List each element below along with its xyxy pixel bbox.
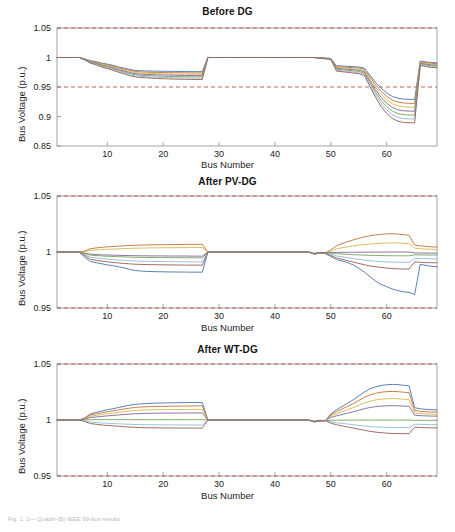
x-tick-label: 60	[382, 479, 392, 489]
series-line	[57, 420, 437, 428]
x-tick-label: 50	[326, 479, 336, 489]
y-tick-label: 1.05	[33, 359, 51, 369]
chart-svg-2: 0.9511.05102030405060	[0, 342, 455, 510]
x-tick-label: 40	[270, 479, 280, 489]
x-tick-label: 20	[158, 311, 168, 321]
series-line	[57, 252, 437, 269]
series-line	[57, 58, 437, 108]
plot-area-2: 0.9511.05102030405060	[0, 342, 455, 510]
x-tick-label: 20	[158, 479, 168, 489]
series-line	[57, 399, 437, 422]
series-line	[57, 252, 437, 295]
plot-area-1: 0.9511.05102030405060	[0, 174, 455, 342]
y-axis-label-0: Bus Voltage (p.u.)	[16, 66, 27, 142]
y-tick-label: 0.9	[38, 112, 51, 122]
figure-caption: Fig. 1. 2— Quadri-(B) IEEE 69-bus result…	[8, 516, 120, 522]
x-tick-label: 60	[382, 149, 392, 159]
x-axis-label-2: Bus Number	[0, 490, 455, 501]
y-tick-label: 1.05	[33, 191, 51, 201]
x-axis-label-0: Bus Number	[0, 159, 455, 170]
y-tick-label: 1	[46, 53, 51, 63]
y-axis-label-1: Bus Voltage (p.u.)	[16, 230, 27, 306]
figure-container: Before DG 0.850.90.9511.05102030405060 B…	[0, 0, 455, 532]
y-axis-label-2: Bus Voltage (p.u.)	[16, 398, 27, 474]
x-axis-label-1: Bus Number	[0, 322, 455, 333]
plot-area-0: 0.850.90.9511.05102030405060	[0, 4, 455, 174]
series-line	[57, 234, 437, 254]
y-tick-label: 1	[46, 415, 51, 425]
y-tick-label: 0.85	[33, 141, 51, 151]
x-tick-label: 10	[102, 479, 112, 489]
x-tick-label: 30	[214, 479, 224, 489]
series-line	[57, 252, 437, 262]
x-tick-label: 10	[102, 149, 112, 159]
series-line	[57, 384, 437, 422]
chart-svg-1: 0.9511.05102030405060	[0, 174, 455, 342]
x-tick-label: 20	[158, 149, 168, 159]
y-tick-label: 0.95	[33, 471, 51, 481]
x-tick-label: 40	[270, 149, 280, 159]
chart-svg-0: 0.850.90.9511.05102030405060	[0, 4, 455, 174]
y-tick-label: 0.95	[33, 303, 51, 313]
x-tick-label: 50	[326, 311, 336, 321]
y-tick-label: 1	[46, 247, 51, 257]
x-tick-label: 30	[214, 149, 224, 159]
y-tick-label: 1.05	[33, 23, 51, 33]
x-tick-label: 10	[102, 311, 112, 321]
chart-panel-after-pv-dg: After PV-DG 0.9511.05102030405060 Bus Vo…	[0, 174, 455, 342]
x-tick-label: 50	[326, 149, 336, 159]
y-tick-label: 0.95	[33, 82, 51, 92]
x-tick-label: 30	[214, 311, 224, 321]
x-tick-label: 40	[270, 311, 280, 321]
chart-panel-after-wt-dg: After WT-DG 0.9511.05102030405060 Bus Vo…	[0, 342, 455, 510]
x-tick-label: 60	[382, 311, 392, 321]
chart-panel-before-dg: Before DG 0.850.90.9511.05102030405060 B…	[0, 4, 455, 174]
